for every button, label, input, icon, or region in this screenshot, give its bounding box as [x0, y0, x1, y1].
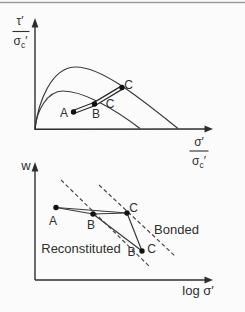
reconstituted-envelope-curve: [35, 91, 140, 129]
label-b-top: B: [92, 107, 100, 121]
top-y-axis-arrow-icon: [32, 18, 39, 28]
top-x-axis-label: σ′ σc′: [190, 135, 209, 170]
top-y-label-numerator: τ′: [17, 14, 25, 28]
bottom-plot: w log σ′ A B C B C Reconstituted Bonded: [20, 158, 214, 298]
label-a-bottom: A: [49, 214, 57, 228]
bottom-x-axis-label: log σ′: [182, 283, 214, 298]
point-b-bottom: [90, 211, 95, 216]
top-y-axis-label: τ′ σc′: [13, 14, 30, 50]
label-b2-yield-bottom: B: [127, 245, 135, 259]
top-y-label-denominator: σc′: [14, 34, 29, 50]
point-a-top: [71, 109, 76, 114]
bottom-y-axis-label: w: [20, 158, 31, 173]
bottom-y-axis-arrow-icon: [32, 162, 39, 172]
label-c-bottom: C: [129, 201, 138, 215]
top-x-label-numerator: σ′: [194, 135, 204, 149]
path-b-to-c: [93, 213, 127, 214]
label-b-bottom: B: [87, 218, 95, 232]
label-a-top: A: [60, 106, 68, 120]
top-plot: τ′ σc′ σ′ σc′ A B C C: [13, 14, 214, 170]
top-x-axis-arrow-icon: [205, 126, 214, 133]
figure-canvas: τ′ σc′ σ′ σc′ A B C C: [0, 0, 245, 312]
label-c-upper-top: C: [124, 78, 133, 92]
bonded-annotation: Bonded: [154, 222, 199, 237]
reconstituted-annotation: Reconstituted: [41, 241, 121, 256]
label-c-lower-top: C: [106, 97, 115, 111]
figure-page: τ′ σc′ σ′ σc′ A B C C: [0, 0, 245, 312]
label-c2-yield-bottom: C: [147, 242, 156, 256]
top-x-label-denominator: σc′: [192, 154, 207, 170]
point-a-bottom: [53, 205, 58, 210]
point-bc-yield-bottom: [139, 248, 144, 253]
point-b-top: [92, 101, 97, 106]
